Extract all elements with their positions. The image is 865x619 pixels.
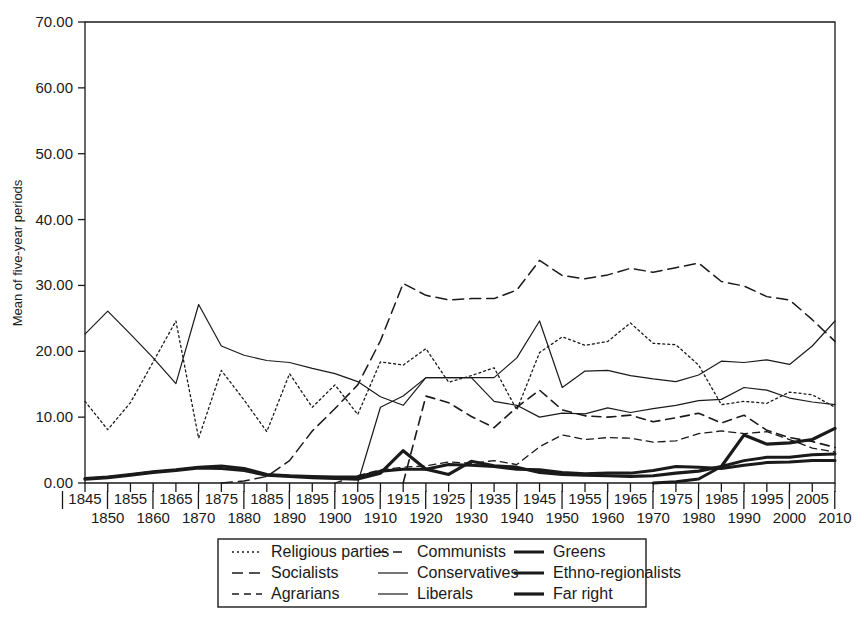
x-tick-label-upper: 1925	[432, 490, 465, 507]
x-tick-label-upper: 1975	[659, 490, 692, 507]
y-tick-label: 20.00	[35, 342, 73, 359]
x-tick-label-lower: 1970	[636, 509, 669, 526]
x-tick-label-lower: 1860	[136, 509, 169, 526]
x-tick-label-upper: 1855	[114, 490, 147, 507]
y-tick-label: 50.00	[35, 145, 73, 162]
x-tick-label-upper: 1845	[68, 490, 101, 507]
x-tick-label-upper: 1995	[750, 490, 783, 507]
chart-background	[0, 0, 865, 619]
x-tick-label-lower: 1890	[273, 509, 306, 526]
x-tick-label-upper: 2005	[796, 490, 829, 507]
legend-item-label: Ethno-regionalists	[553, 564, 681, 581]
legend-item-label: Liberals	[417, 585, 473, 602]
legend-item-label: Conservatives	[417, 564, 518, 581]
x-tick-label-upper: 1945	[523, 490, 556, 507]
y-tick-label: 10.00	[35, 408, 73, 425]
legend-item-label: Communists	[417, 543, 506, 560]
x-tick-label-lower: 1960	[591, 509, 624, 526]
x-tick-label-lower: 2000	[773, 509, 806, 526]
x-tick-label-upper: 1915	[386, 490, 419, 507]
x-tick-label-upper: 1865	[159, 490, 192, 507]
chart-container: Mean of five-year periods 0.0010.0020.00…	[0, 0, 865, 619]
x-tick-label-upper: 1885	[250, 490, 283, 507]
x-tick-label-lower: 1950	[546, 509, 579, 526]
y-tick-label: 40.00	[35, 211, 73, 228]
x-tick-label-lower: 1880	[227, 509, 260, 526]
x-tick-label-lower: 1900	[318, 509, 351, 526]
x-tick-label-lower: 2010	[818, 509, 851, 526]
y-tick-label: 30.00	[35, 276, 73, 293]
x-tick-label-lower: 1980	[682, 509, 715, 526]
y-tick-label: 0.00	[44, 474, 73, 491]
legend-item-label: Far right	[553, 585, 613, 602]
y-tick-label: 70.00	[35, 13, 73, 30]
y-axis-title: Mean of five-year periods	[10, 179, 25, 326]
x-tick-label-upper: 1895	[296, 490, 329, 507]
x-axis-tick-labels-lower: 1850186018701880189019001910192019301940…	[91, 509, 852, 526]
x-tick-label-lower: 1910	[364, 509, 397, 526]
x-tick-label-upper: 1955	[568, 490, 601, 507]
legend-item-label: Socialists	[271, 564, 339, 581]
x-tick-label-lower: 1930	[455, 509, 488, 526]
legend-item-label: Religious parties	[271, 543, 389, 560]
x-tick-label-upper: 1985	[705, 490, 738, 507]
x-tick-label-upper: 1935	[477, 490, 510, 507]
x-axis-tick-labels-upper: 1845185518651875188518951905191519251935…	[63, 490, 835, 509]
legend-item-label: Agrarians	[271, 585, 339, 602]
x-tick-label-lower: 1940	[500, 509, 533, 526]
x-tick-label-lower: 1850	[91, 509, 124, 526]
line-chart: Mean of five-year periods 0.0010.0020.00…	[0, 0, 865, 619]
x-tick-label-lower: 1920	[409, 509, 442, 526]
x-tick-label-upper: 1905	[341, 490, 374, 507]
x-tick-label-upper: 1965	[614, 490, 647, 507]
x-tick-label-lower: 1990	[727, 509, 760, 526]
x-tick-label-upper: 1875	[205, 490, 238, 507]
x-tick-label-lower: 1870	[182, 509, 215, 526]
y-tick-label: 60.00	[35, 79, 73, 96]
legend-item-label: Greens	[553, 543, 605, 560]
